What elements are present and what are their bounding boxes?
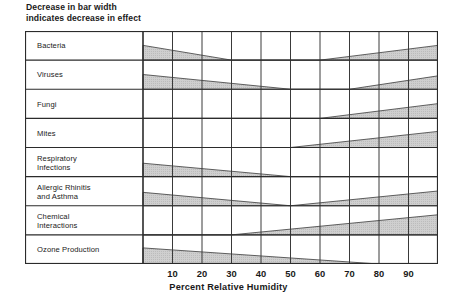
x-tick-80: 80 [367, 268, 391, 279]
row-label-allergic-rhinitis-and-asthma: Allergic Rhinitisand Asthma [37, 183, 91, 202]
row-label-ozone-production: Ozone Production [37, 245, 99, 254]
row-label-bacteria: Bacteria [37, 41, 66, 50]
x-tick-40: 40 [249, 268, 273, 279]
row-label-chemical-interactions: ChemicalInteractions [37, 212, 78, 231]
x-tick-90: 90 [397, 268, 421, 279]
x-tick-60: 60 [308, 268, 332, 279]
chart-plot-area: BacteriaVirusesFungiMitesRespiratoryInfe… [25, 31, 438, 264]
chart-title: Decrease in bar width indicates decrease… [26, 2, 141, 23]
x-tick-50: 50 [279, 268, 303, 279]
x-axis-tick-labels: 102030405060708090 [0, 268, 457, 282]
x-tick-70: 70 [338, 268, 362, 279]
row-label-fungi: Fungi [37, 100, 57, 109]
x-axis-title: Percent Relative Humidity [0, 282, 457, 292]
x-tick-20: 20 [190, 268, 214, 279]
humidity-effect-chart: BacteriaVirusesFungiMitesRespiratoryInfe… [25, 31, 438, 264]
row-label-viruses: Viruses [37, 70, 63, 79]
row-label-respiratory-infections: RespiratoryInfections [37, 154, 77, 173]
x-tick-10: 10 [161, 268, 185, 279]
x-tick-30: 30 [220, 268, 244, 279]
row-label-mites: Mites [37, 129, 56, 138]
